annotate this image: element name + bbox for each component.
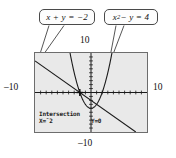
- callout-line-equation: x + y = −2: [39, 9, 95, 25]
- callout-line-equation-text: x + y = −2: [46, 13, 88, 22]
- graph-figure: x + y = −2 x2 − y = 4 10 –10 –10 10: [0, 0, 176, 158]
- callout-parabola-tail: − y = 4: [120, 13, 149, 22]
- axis-label-xmax: 10: [153, 83, 163, 93]
- axis-label-xmin: –10: [4, 83, 18, 93]
- axis-label-ymin: –10: [78, 139, 92, 149]
- axis-label-ymax: 10: [80, 36, 90, 46]
- calculator-screen: Intersection X=ˉ2 Y=0: [34, 52, 148, 133]
- callout-parabola-equation: x2 − y = 4: [104, 9, 158, 25]
- readout-y-value: Y=0: [91, 117, 101, 124]
- readout-title: Intersection: [39, 110, 80, 117]
- readout-x-value: X=ˉ2: [39, 117, 53, 124]
- intersection-cursor: [76, 89, 83, 96]
